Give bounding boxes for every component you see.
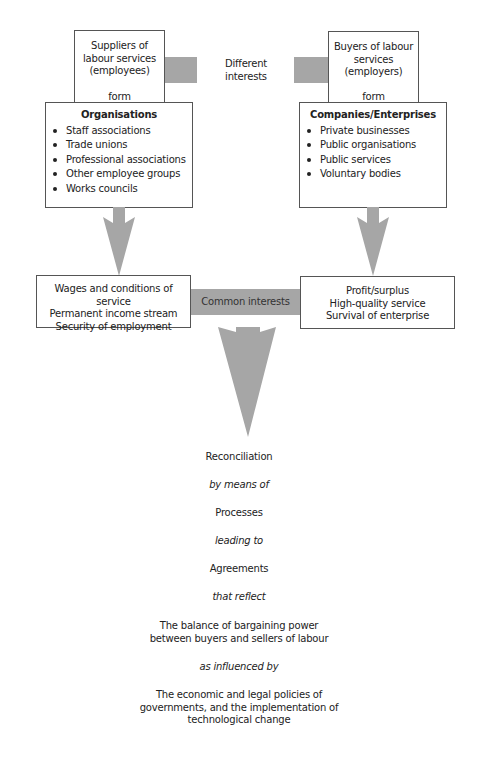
flow-leading-to: leading to (0, 535, 478, 548)
left-down-arrow-icon (103, 207, 135, 277)
list-item: Public organisations (300, 138, 446, 153)
list-item: Professional associations (46, 153, 192, 168)
organisations-box: Organisations Staff associations Trade u… (45, 102, 193, 208)
flow-agreements: Agreements (0, 563, 478, 576)
suppliers-box: Suppliers of labour services (employees)… (74, 30, 165, 103)
list-item: Private businesses (300, 124, 446, 139)
flow-by-means-of: by means of (0, 479, 478, 492)
different-interests-connector-right (294, 57, 329, 83)
organisations-title: Organisations (46, 109, 192, 122)
list-item: Public services (300, 153, 446, 168)
buyers-box: Buyers of labour services (employers) fo… (328, 31, 419, 103)
list-item: Staff associations (46, 124, 192, 139)
companies-list: Private businesses Public organisations … (300, 124, 446, 182)
companies-box: Companies/Enterprises Private businesses… (299, 102, 447, 208)
list-item: Trade unions (46, 138, 192, 153)
flow-processes: Processes (0, 507, 478, 520)
list-item: Other employee groups (46, 167, 192, 182)
different-interests-connector-left (164, 57, 197, 83)
common-interests-label: Common interests (190, 296, 301, 309)
different-interests-label: Different interests (200, 58, 292, 83)
organisations-list: Staff associations Trade unions Professi… (46, 124, 192, 197)
right-down-arrow-icon (357, 207, 389, 277)
list-item: Voluntary bodies (300, 167, 446, 182)
flow-policies: The economic and legal policies of gover… (0, 689, 478, 727)
flow-balance: The balance of bargaining power between … (0, 620, 478, 645)
list-item: Works councils (46, 182, 192, 197)
flow-reconciliation: Reconciliation (0, 451, 478, 464)
employer-interests-box: Profit/surplus High-quality service Surv… (300, 276, 455, 329)
flow-as-influenced-by: as influenced by (0, 661, 478, 674)
companies-title: Companies/Enterprises (300, 109, 446, 122)
flow-that-reflect: that reflect (0, 591, 478, 604)
employee-interests-box: Wages and conditions of service Permanen… (36, 275, 191, 328)
reconciliation-down-arrow-icon (218, 327, 278, 438)
